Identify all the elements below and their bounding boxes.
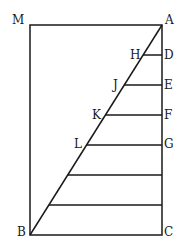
label-H: H <box>130 48 140 62</box>
label-G: G <box>164 137 174 151</box>
label-F: F <box>164 108 172 122</box>
label-B: B <box>17 225 26 239</box>
label-J: J <box>111 78 118 92</box>
label-L: L <box>74 137 82 151</box>
label-E: E <box>164 78 173 92</box>
label-M: M <box>12 13 24 27</box>
geometry-diagram: M A H D J E K F L G B C <box>0 0 185 246</box>
label-K: K <box>92 108 102 122</box>
label-D: D <box>164 48 174 62</box>
label-A: A <box>164 13 174 27</box>
label-C: C <box>164 225 173 239</box>
diagonal-AB <box>30 25 162 235</box>
